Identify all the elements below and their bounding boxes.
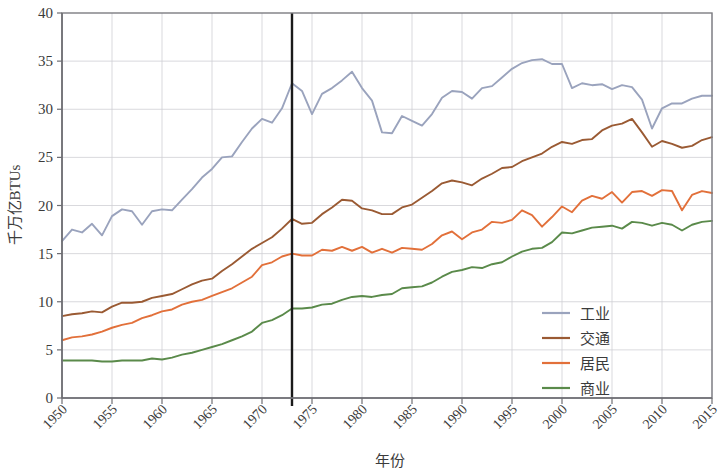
y-tick-label: 5 bbox=[46, 342, 54, 358]
series-line-2 bbox=[62, 190, 712, 340]
y-tick-label: 30 bbox=[38, 101, 53, 117]
y-axis-ticks: 0510152025303540 bbox=[38, 5, 62, 406]
x-axis-title: 年份 bbox=[375, 453, 405, 469]
y-tick-label: 40 bbox=[38, 5, 53, 21]
y-axis-title: 千万亿BTUs bbox=[7, 164, 23, 245]
series-line-1 bbox=[62, 119, 712, 316]
y-tick-label: 0 bbox=[46, 390, 54, 406]
x-axis-ticks: 1950195519601965197019751980198519901995… bbox=[40, 398, 720, 432]
x-tick-label: 1980 bbox=[340, 402, 370, 432]
x-tick-label: 2015 bbox=[690, 402, 720, 432]
legend: 工业交通居民商业 bbox=[542, 306, 610, 397]
series-line-3 bbox=[62, 221, 712, 362]
chart-container: 0510152025303540 19501955196019651970197… bbox=[0, 0, 721, 471]
y-tick-label: 20 bbox=[38, 198, 53, 214]
x-tick-label: 2005 bbox=[590, 402, 620, 432]
y-tick-label: 25 bbox=[38, 149, 53, 165]
legend-label-1: 交通 bbox=[580, 330, 610, 347]
x-tick-label: 1995 bbox=[490, 402, 520, 432]
x-tick-label: 1970 bbox=[240, 402, 270, 432]
y-tick-label: 35 bbox=[38, 53, 53, 69]
legend-label-0: 工业 bbox=[580, 306, 610, 322]
grid-lines bbox=[62, 13, 712, 398]
y-tick-label: 15 bbox=[38, 246, 53, 262]
x-tick-label: 1985 bbox=[390, 402, 420, 432]
x-tick-label: 1990 bbox=[440, 402, 470, 432]
legend-label-2: 居民 bbox=[580, 356, 610, 372]
y-tick-label: 10 bbox=[38, 294, 53, 310]
x-tick-label: 1975 bbox=[290, 402, 320, 432]
x-tick-label: 1960 bbox=[140, 402, 170, 432]
line-chart: 0510152025303540 19501955196019651970197… bbox=[0, 0, 721, 471]
x-tick-label: 2010 bbox=[640, 402, 670, 432]
x-tick-label: 1965 bbox=[190, 402, 220, 432]
legend-label-3: 商业 bbox=[580, 381, 610, 397]
x-tick-label: 2000 bbox=[540, 402, 570, 432]
x-tick-label: 1950 bbox=[40, 402, 70, 432]
series-lines bbox=[62, 59, 712, 361]
x-tick-label: 1955 bbox=[90, 402, 120, 432]
